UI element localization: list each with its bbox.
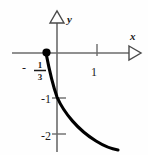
x-axis-label: x [129,30,136,42]
x-axis-arrow-icon [129,46,141,60]
fraction-denominator: 3 [38,72,43,82]
y-tick-label-neg2: -2 [41,129,51,143]
graph-figure: x y 1 -1 -2 - 1 3 [0,0,148,155]
fraction-numerator: 1 [38,60,43,70]
endpoint-dot [42,48,50,56]
y-axis-arrow-icon [50,11,64,23]
fraction-minus-sign: - [22,61,26,75]
y-tick-label-neg1: -1 [41,92,51,106]
x-tick-label-1: 1 [91,65,97,79]
y-axis-label: y [65,13,72,25]
x-intercept-fraction-label: - 1 3 [22,60,46,82]
coordinate-plot: x y 1 -1 -2 - 1 3 [0,0,148,155]
